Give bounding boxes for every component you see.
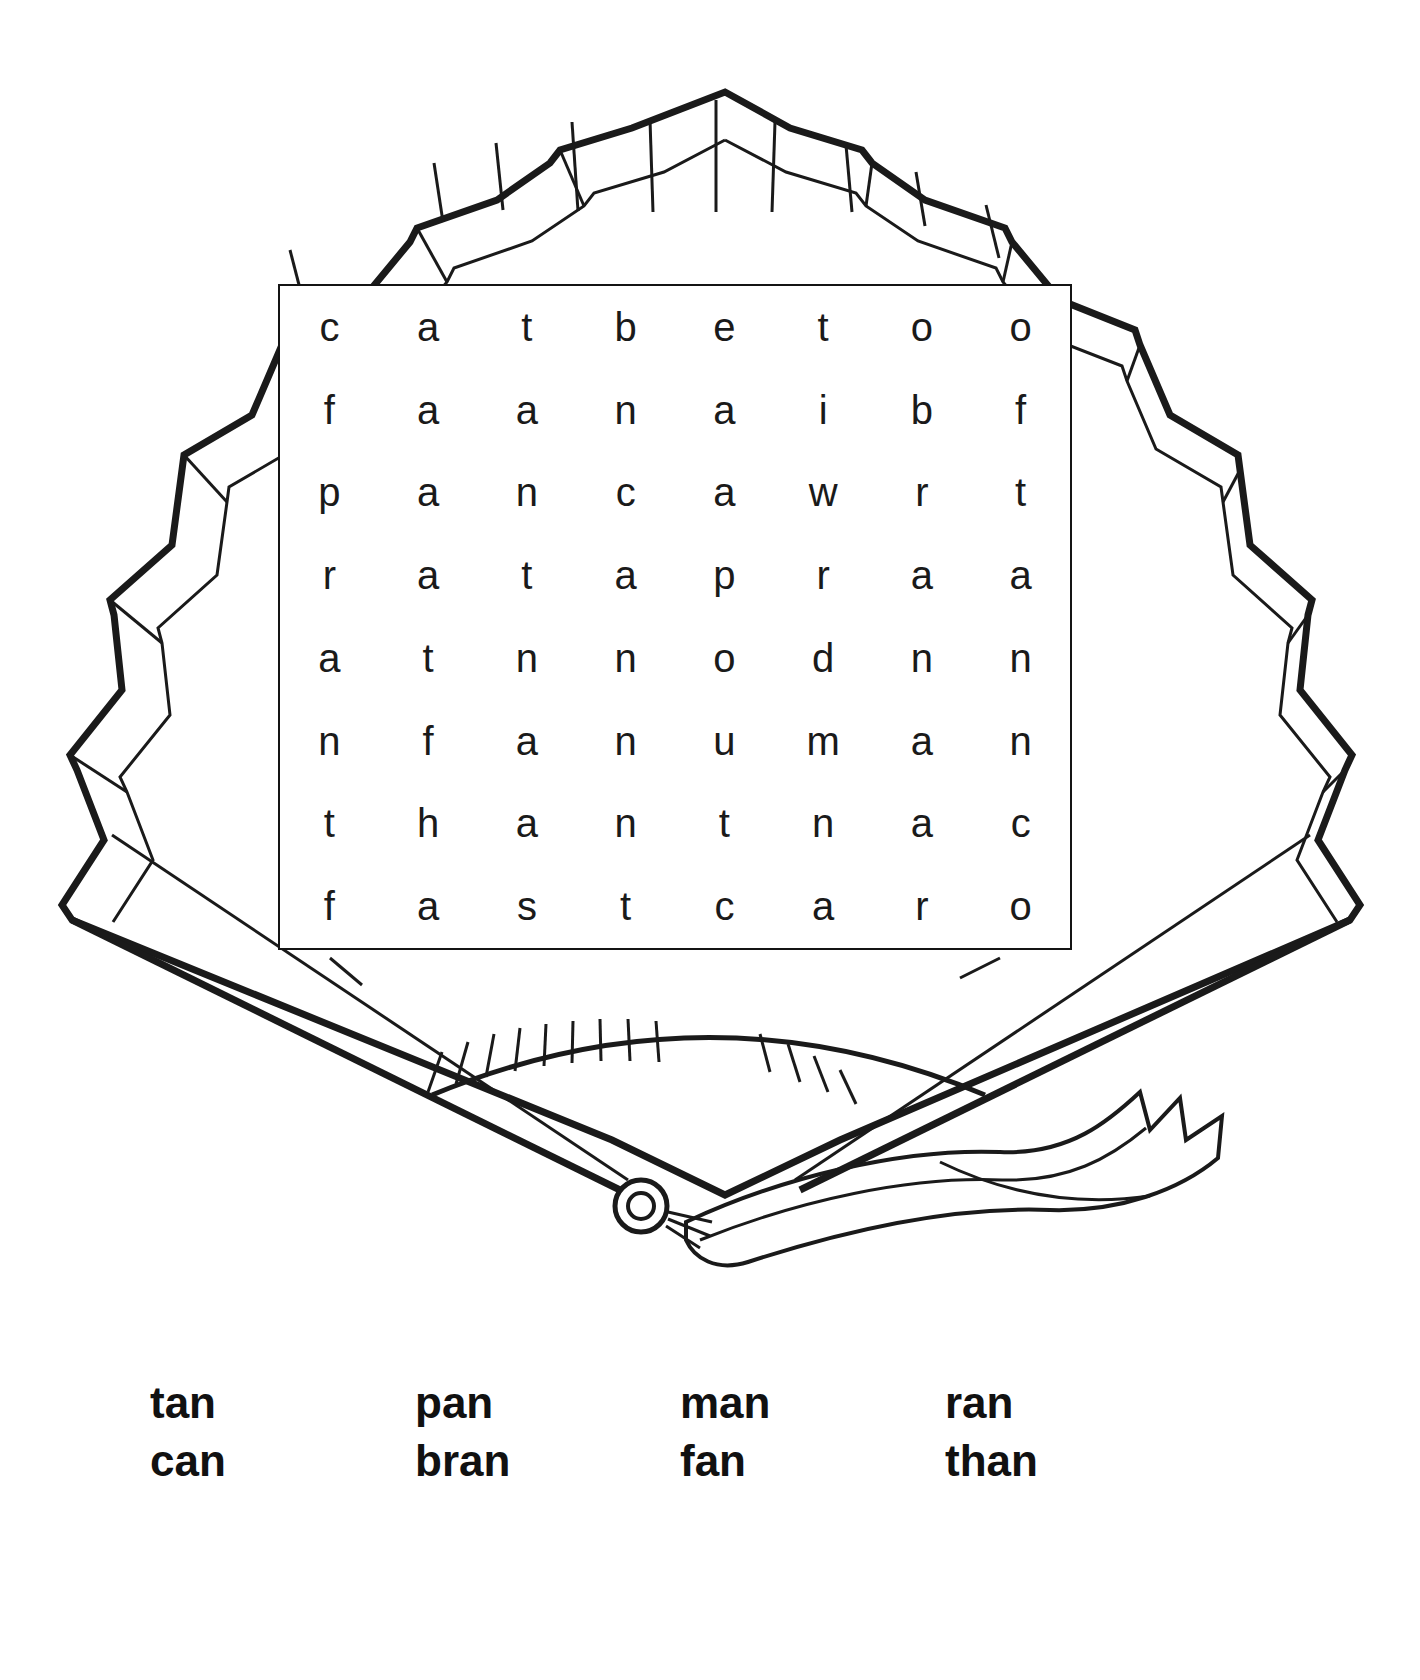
letter-cell[interactable]: n <box>576 617 675 700</box>
letter-cell[interactable]: r <box>873 865 972 948</box>
letter-cell[interactable]: n <box>971 617 1070 700</box>
letter-cell[interactable]: n <box>873 617 972 700</box>
letter-cell[interactable]: a <box>379 286 478 369</box>
word-bank-word[interactable]: pan <box>385 1378 650 1428</box>
letter-cell[interactable]: n <box>576 700 675 783</box>
letter-cell[interactable]: a <box>774 865 873 948</box>
letter-cell[interactable]: n <box>576 369 675 452</box>
letter-cell[interactable]: p <box>280 452 379 535</box>
letter-cell[interactable]: f <box>971 369 1070 452</box>
word-search-grid[interactable]: catbetoofaanaibfpancawrtratapraaatnnodnn… <box>278 284 1072 950</box>
word-bank-word[interactable]: bran <box>385 1436 650 1486</box>
letter-cell[interactable]: a <box>576 534 675 617</box>
letter-cell[interactable]: u <box>675 700 774 783</box>
word-bank-word[interactable]: ran <box>915 1378 1180 1428</box>
letter-cell[interactable]: a <box>379 452 478 535</box>
letter-cell[interactable]: a <box>280 617 379 700</box>
letter-cell[interactable]: w <box>774 452 873 535</box>
letter-cell[interactable]: f <box>280 369 379 452</box>
letter-cell[interactable]: n <box>971 700 1070 783</box>
letter-grid-row: faanaibf <box>280 369 1070 452</box>
letter-cell[interactable]: a <box>478 700 577 783</box>
letter-cell[interactable]: c <box>576 452 675 535</box>
letter-cell[interactable]: a <box>873 700 972 783</box>
word-bank: tanpanmanrancanbranfanthan <box>120 1378 1180 1494</box>
letter-cell[interactable]: a <box>379 865 478 948</box>
letter-grid-row: catbetoo <box>280 286 1070 369</box>
letter-cell[interactable]: m <box>774 700 873 783</box>
letter-grid-row: fastcaro <box>280 865 1070 948</box>
letter-cell[interactable]: a <box>675 452 774 535</box>
letter-cell[interactable]: t <box>478 286 577 369</box>
letter-cell[interactable]: r <box>280 534 379 617</box>
letter-cell[interactable]: t <box>280 783 379 866</box>
letter-cell[interactable]: n <box>280 700 379 783</box>
letter-cell[interactable]: e <box>675 286 774 369</box>
letter-cell[interactable]: a <box>971 534 1070 617</box>
letter-cell[interactable]: t <box>971 452 1070 535</box>
letter-grid-row: atnnodnn <box>280 617 1070 700</box>
word-bank-word[interactable]: than <box>915 1436 1180 1486</box>
word-bank-row: canbranfanthan <box>120 1436 1180 1486</box>
letter-grid-row: thantnac <box>280 783 1070 866</box>
letter-cell[interactable]: o <box>971 286 1070 369</box>
letter-cell[interactable]: n <box>478 452 577 535</box>
letter-cell[interactable]: a <box>873 783 972 866</box>
letter-cell[interactable]: t <box>379 617 478 700</box>
letter-cell[interactable]: n <box>774 783 873 866</box>
letter-cell[interactable]: c <box>971 783 1070 866</box>
letter-cell[interactable]: i <box>774 369 873 452</box>
letter-grid-body: catbetoofaanaibfpancawrtratapraaatnnodnn… <box>280 286 1070 948</box>
letter-cell[interactable]: a <box>379 369 478 452</box>
letter-grid-row: ratapraa <box>280 534 1070 617</box>
letter-grid-row: pancawrt <box>280 452 1070 535</box>
letter-cell[interactable]: n <box>576 783 675 866</box>
letter-cell[interactable]: p <box>675 534 774 617</box>
letter-cell[interactable]: d <box>774 617 873 700</box>
letter-cell[interactable]: a <box>873 534 972 617</box>
letter-cell[interactable]: n <box>478 617 577 700</box>
letter-cell[interactable]: a <box>675 369 774 452</box>
word-bank-word[interactable]: tan <box>120 1378 385 1428</box>
letter-cell[interactable]: t <box>478 534 577 617</box>
letter-cell[interactable]: b <box>873 369 972 452</box>
letter-cell[interactable]: h <box>379 783 478 866</box>
letter-cell[interactable]: t <box>774 286 873 369</box>
letter-grid-table: catbetoofaanaibfpancawrtratapraaatnnodnn… <box>280 286 1070 948</box>
letter-cell[interactable]: a <box>379 534 478 617</box>
letter-cell[interactable]: o <box>675 617 774 700</box>
letter-cell[interactable]: o <box>971 865 1070 948</box>
letter-cell[interactable]: r <box>873 452 972 535</box>
letter-cell[interactable]: t <box>675 783 774 866</box>
letter-cell[interactable]: s <box>478 865 577 948</box>
letter-cell[interactable]: c <box>675 865 774 948</box>
letter-cell[interactable]: a <box>478 783 577 866</box>
letter-cell[interactable]: f <box>280 865 379 948</box>
letter-cell[interactable]: o <box>873 286 972 369</box>
word-bank-word[interactable]: can <box>120 1436 385 1486</box>
letter-cell[interactable]: f <box>379 700 478 783</box>
letter-cell[interactable]: a <box>478 369 577 452</box>
letter-cell[interactable]: c <box>280 286 379 369</box>
letter-cell[interactable]: t <box>576 865 675 948</box>
word-bank-row: tanpanmanran <box>120 1378 1180 1428</box>
letter-grid-row: nfanuman <box>280 700 1070 783</box>
word-search-worksheet: catbetoofaanaibfpancawrtratapraaatnnodnn… <box>0 0 1420 1680</box>
letter-cell[interactable]: b <box>576 286 675 369</box>
word-bank-word[interactable]: fan <box>650 1436 915 1486</box>
letter-cell[interactable]: r <box>774 534 873 617</box>
word-bank-word[interactable]: man <box>650 1378 915 1428</box>
